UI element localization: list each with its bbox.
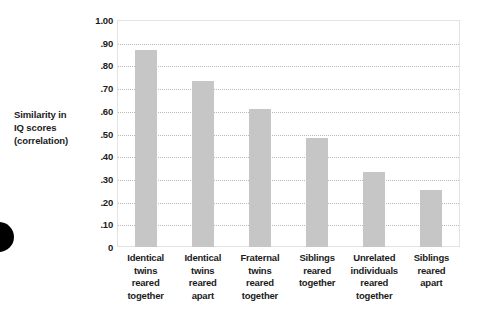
bar-series [117, 20, 460, 247]
x-category-label-line: twins [115, 265, 177, 278]
x-category-label: Siblingsrearedapart [400, 252, 462, 290]
bar [363, 172, 385, 247]
x-category-label-line: reared [286, 265, 348, 278]
bar [135, 50, 157, 247]
x-category-label: Fraternaltwinsrearedtogether [229, 252, 291, 302]
x-category-label-line: Siblings [400, 252, 462, 265]
x-category-label-line: together [115, 290, 177, 303]
y-tick-label: .70 [79, 83, 113, 94]
bar [249, 109, 271, 247]
x-category-label-line: reared [229, 277, 291, 290]
x-category-label-line: reared [115, 277, 177, 290]
x-category-label-line: twins [229, 265, 291, 278]
x-category-label-line: reared [172, 277, 234, 290]
bar [192, 81, 214, 247]
x-axis-category-labels: IdenticaltwinsrearedtogetherIdenticaltwi… [117, 252, 460, 310]
x-category-label-line: Siblings [286, 252, 348, 265]
x-category-label-line: individuals [343, 265, 405, 278]
y-tick-label: 1.00 [79, 15, 113, 26]
x-category-label-line: apart [400, 277, 462, 290]
x-category-label-line: reared [343, 277, 405, 290]
y-tick-label: .40 [79, 151, 113, 162]
x-category-label-line: twins [172, 265, 234, 278]
y-tick-label: .80 [79, 60, 113, 71]
y-tick-label: .30 [79, 173, 113, 184]
x-category-label-line: Identical [115, 252, 177, 265]
page-edge-artifact [0, 222, 14, 252]
bar [306, 138, 328, 247]
x-category-label: Siblingsrearedtogether [286, 252, 348, 290]
x-category-label-line: reared [400, 265, 462, 278]
y-tick-label: 0 [79, 242, 113, 253]
y-tick-label: .60 [79, 105, 113, 116]
iq-correlation-bar-chart: Similarity in IQ scores (correlation) 1.… [0, 0, 483, 312]
x-category-label: Unrelatedindividualsrearedtogether [343, 252, 405, 302]
y-axis-tick-labels: 1.00.90.80.70.60.50.40.30.20.100 [77, 20, 113, 247]
x-category-label: Identicaltwinsrearedtogether [115, 252, 177, 302]
x-category-label-line: together [343, 290, 405, 303]
x-category-label-line: together [229, 290, 291, 303]
y-tick-label: .50 [79, 128, 113, 139]
y-tick-label: .90 [79, 37, 113, 48]
x-category-label-line: Identical [172, 252, 234, 265]
y-tick-label: .20 [79, 196, 113, 207]
x-category-label-line: apart [172, 290, 234, 303]
x-category-label: Identicaltwinsrearedapart [172, 252, 234, 302]
x-category-label-line: Fraternal [229, 252, 291, 265]
x-category-label-line: together [286, 277, 348, 290]
y-tick-label: .10 [79, 219, 113, 230]
bar [420, 190, 442, 247]
x-category-label-line: Unrelated [343, 252, 405, 265]
